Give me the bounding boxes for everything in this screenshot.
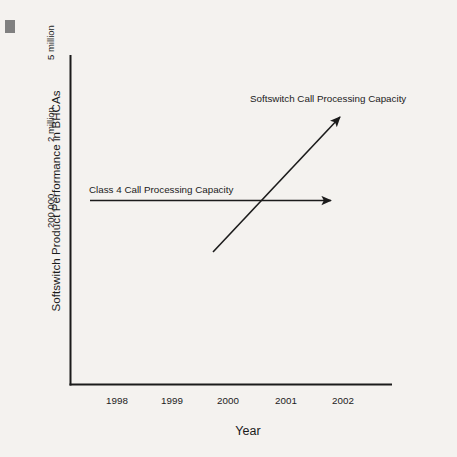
chart-figure: Softswitch Product Performance in BHCAs … — [0, 0, 457, 457]
series-annotation-softswitch: Softswitch Call Processing Capacity — [250, 93, 406, 104]
y-axis-tick-label: 2 million — [45, 107, 56, 142]
y-axis-tick-label: 5 million — [45, 25, 56, 60]
series-annotation-class4: Class 4 Call Processing Capacity — [89, 184, 233, 195]
x-axis-tick-label: 1998 — [87, 395, 147, 406]
x-axis-title: Year — [200, 424, 296, 438]
chart-plot-area — [0, 0, 457, 457]
x-axis-tick-label: 2000 — [198, 395, 258, 406]
y-axis-tick-label: 200,000 — [45, 194, 56, 228]
x-axis-tick-label: 2002 — [313, 395, 373, 406]
x-axis-tick-label: 1999 — [142, 395, 202, 406]
x-axis-tick-label: 2001 — [256, 395, 316, 406]
